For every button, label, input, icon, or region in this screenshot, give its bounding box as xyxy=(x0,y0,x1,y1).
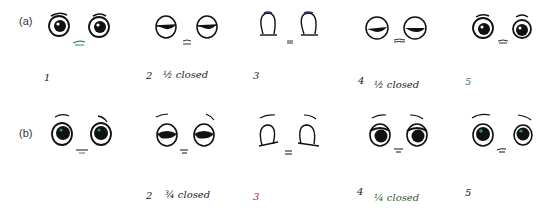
frame-caption-b4: ¼ closed xyxy=(374,192,419,203)
face-b1-open-eyes-icon xyxy=(50,112,120,157)
frame-caption-a2: ½ closed xyxy=(163,69,208,80)
frame-number-b3: 3 xyxy=(253,191,259,202)
face-a2-half-closed-icon xyxy=(155,10,235,50)
face-a1-open-eyes-icon xyxy=(45,10,115,50)
frame-number-a4: 4 xyxy=(358,75,364,86)
frame-number-a1: 1 xyxy=(44,72,50,83)
face-a3-closed-icon xyxy=(258,12,328,52)
frame-caption-a4: ½ closed xyxy=(374,79,419,90)
frame-number-b5: 5 xyxy=(465,187,471,198)
face-b5-open-eyes-icon xyxy=(470,112,545,157)
face-b4-quarter-closed-icon xyxy=(368,112,448,157)
row-label-a: (a) xyxy=(19,15,32,27)
row-label-b: (b) xyxy=(19,127,32,139)
frame-number-a5: 5 xyxy=(465,76,471,87)
face-b3-closed-icon xyxy=(258,112,333,157)
face-a5-open-eyes-icon xyxy=(470,12,540,52)
frame-number-a3: 3 xyxy=(253,70,259,81)
face-a4-half-closed-icon xyxy=(365,12,445,52)
frame-caption-b2: ¾ closed xyxy=(165,189,210,200)
frame-number-b4: 4 xyxy=(357,186,363,197)
face-b2-three-quarter-closed-icon xyxy=(156,112,236,157)
frame-number-a2: 2 xyxy=(146,70,152,81)
frame-number-b2: 2 xyxy=(146,190,152,201)
